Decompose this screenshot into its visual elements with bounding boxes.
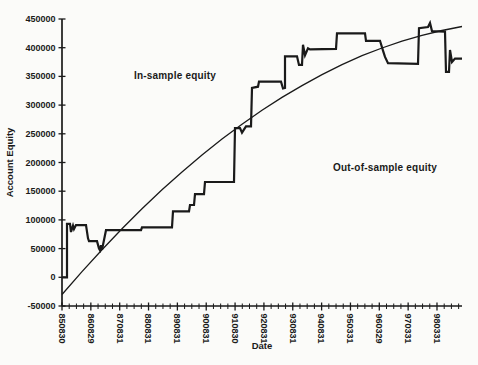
y-tick-label: 250000 <box>25 129 55 139</box>
account-equity-line <box>62 23 462 277</box>
x-tick-label: 900831 <box>201 314 211 344</box>
x-tick-label: 870831 <box>115 314 125 344</box>
x-tick-label: 980331 <box>432 314 442 344</box>
y-tick-label: 400000 <box>25 43 55 53</box>
x-tick-label: 960329 <box>374 314 384 344</box>
y-tick-label: 450000 <box>25 14 55 24</box>
y-tick-label: 0 <box>50 272 55 282</box>
x-tick-label: 850830 <box>57 314 67 344</box>
x-tick-label: 970331 <box>403 314 413 344</box>
y-tick-label: 300000 <box>25 100 55 110</box>
y-tick-label: 100000 <box>25 215 55 225</box>
y-axis-title: Account Equity <box>4 127 15 197</box>
y-tick-label: 50000 <box>30 244 55 254</box>
x-axis-title: Date <box>252 340 273 351</box>
x-tick-label: 910830 <box>230 314 240 344</box>
y-tick-label: 150000 <box>25 186 55 196</box>
x-tick-label: 950331 <box>345 314 355 344</box>
annotation-in-sample-equity: In-sample equity <box>134 70 216 81</box>
y-tick-label: 200000 <box>25 158 55 168</box>
annotation-out-of-sample-equity: Out-of-sample equity <box>333 162 437 173</box>
x-tick-label: 890831 <box>172 314 182 344</box>
x-tick-label: 940831 <box>316 314 326 344</box>
x-tick-label: 860829 <box>86 314 96 344</box>
y-tick-label: 350000 <box>25 71 55 81</box>
fitted-equity-curve-line <box>62 27 462 295</box>
x-tick-label: 880831 <box>143 314 153 344</box>
x-tick-label: 930831 <box>288 314 298 344</box>
account-equity-chart: 4500004000003500003000002500002000001500… <box>0 0 478 365</box>
equity-chart-figure: 4500004000003500003000002500002000001500… <box>0 0 478 365</box>
y-tick-label: -50000 <box>27 301 55 311</box>
